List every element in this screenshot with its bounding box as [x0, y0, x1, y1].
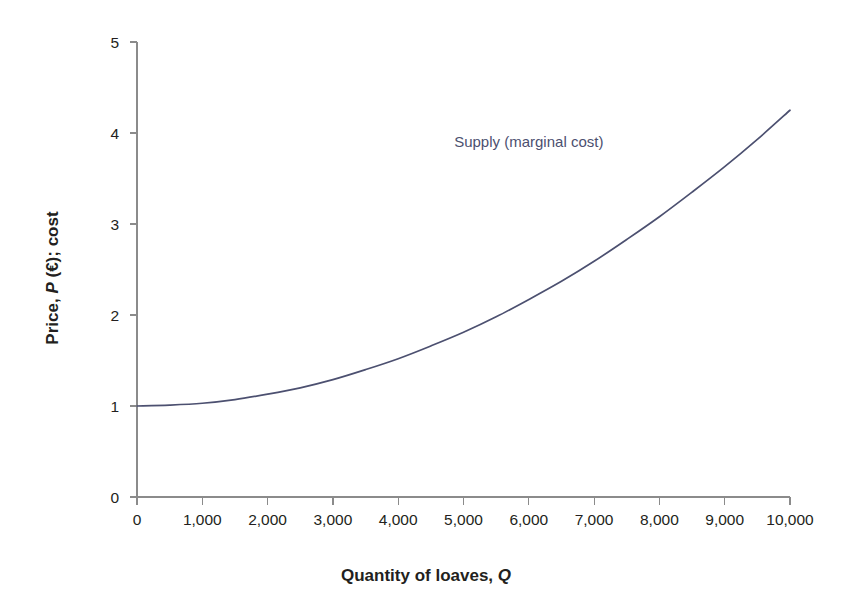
y-tick-label: 2 — [110, 307, 119, 324]
x-tick-label: 1,000 — [183, 511, 222, 528]
x-tick-label: 8,000 — [640, 511, 679, 528]
supply-curve-chart: 012345 01,0002,0003,0004,0005,0006,0007,… — [0, 0, 853, 613]
x-tick-label: 4,000 — [379, 511, 418, 528]
x-tick-label: 6,000 — [509, 511, 548, 528]
supply-curve-annotation-label: Supply (marginal cost) — [454, 133, 603, 150]
y-axis-title-text-a: Price, — [43, 298, 62, 344]
y-axis-title-symbol: P — [43, 282, 62, 294]
svg-text:Quantity of loaves, Q: Quantity of loaves, Q — [341, 566, 511, 585]
x-axis-title: Quantity of loaves, Q — [341, 566, 511, 585]
x-tick-label: 2,000 — [248, 511, 287, 528]
y-tick-label: 5 — [110, 34, 119, 51]
chart-canvas: 012345 01,0002,0003,0004,0005,0006,0007,… — [0, 0, 853, 613]
y-tick-label: 1 — [110, 398, 119, 415]
y-tick-label: 4 — [110, 125, 119, 142]
y-axis-ticks: 012345 — [110, 34, 137, 506]
x-tick-label: 9,000 — [705, 511, 744, 528]
supply-curve-line — [137, 110, 790, 406]
y-axis-title: Price, P (€); cost — [43, 211, 62, 345]
x-tick-label: 5,000 — [444, 511, 483, 528]
x-tick-label: 10,000 — [766, 511, 814, 528]
y-axis-title-text-b: (€); cost — [43, 211, 62, 277]
x-axis-ticks: 01,0002,0003,0004,0005,0006,0007,0008,00… — [133, 497, 814, 528]
x-axis-title-symbol: Q — [498, 566, 511, 585]
y-tick-label: 3 — [110, 216, 119, 233]
x-axis-title-text: Quantity of loaves, — [341, 566, 493, 585]
svg-text:Price, P (€); cost: Price, P (€); cost — [43, 211, 62, 345]
y-tick-label: 0 — [110, 489, 119, 506]
x-tick-label: 0 — [133, 511, 142, 528]
axes-group — [137, 42, 790, 497]
x-tick-label: 3,000 — [314, 511, 353, 528]
x-tick-label: 7,000 — [575, 511, 614, 528]
